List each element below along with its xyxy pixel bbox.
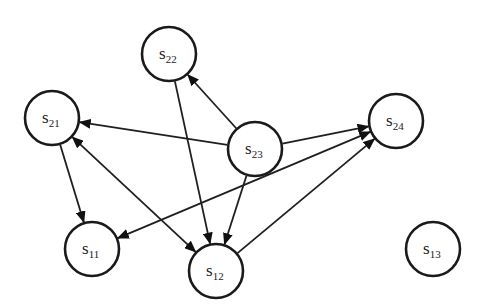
edge-line [80, 122, 228, 145]
node-s22: s22 [142, 27, 196, 81]
node-s21: s21 [25, 91, 79, 145]
edge-line [188, 75, 236, 128]
node-s23: s23 [228, 122, 282, 176]
node-s24: s24 [369, 94, 423, 148]
edge-s23-s21 [80, 122, 228, 145]
edge-line [175, 81, 210, 243]
nodes-layer: s22s21s23s24s11s12s13 [25, 27, 460, 298]
edge-s23-s22 [188, 75, 236, 128]
node-s13: s13 [406, 222, 460, 276]
edge-s22-s12 [175, 81, 210, 243]
edge-s21-s11 [60, 145, 84, 222]
edge-s23-s24 [282, 126, 368, 143]
edge-line [282, 126, 368, 143]
node-s12: s12 [189, 244, 243, 298]
node-s11: s11 [65, 222, 119, 276]
edge-line [60, 145, 84, 222]
state-graph-diagram: s22s21s23s24s11s12s13 [0, 0, 484, 307]
